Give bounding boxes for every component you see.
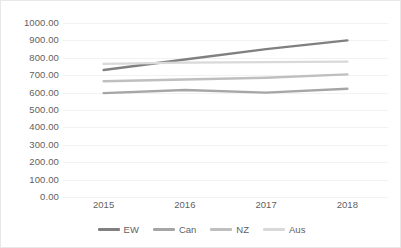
y-tick-label: 600.00 (3, 88, 59, 98)
legend-swatch-icon (263, 228, 285, 231)
series-line-aus (104, 62, 348, 64)
x-tick-label: 2017 (256, 199, 277, 211)
y-tick-label: 0.00 (3, 192, 59, 202)
y-tick-label: 900.00 (3, 35, 59, 45)
x-axis: 2015201620172018 (63, 199, 388, 215)
series-lines (63, 23, 388, 197)
legend-item-ew[interactable]: EW (98, 224, 139, 235)
series-line-can (104, 89, 348, 93)
legend-item-can[interactable]: Can (153, 224, 196, 235)
x-tick-label: 2015 (93, 199, 114, 211)
y-tick-label: 300.00 (3, 140, 59, 150)
y-tick-label: 1000.00 (3, 18, 59, 28)
legend-swatch-icon (210, 228, 232, 231)
y-axis: 1000.00900.00800.00700.00600.00500.00400… (1, 1, 59, 248)
series-line-nz (104, 74, 348, 81)
y-tick-label: 100.00 (3, 175, 59, 185)
x-tick-label: 2018 (337, 199, 358, 211)
legend-label: Can (179, 224, 196, 235)
legend-item-aus[interactable]: Aus (263, 224, 305, 235)
legend-label: NZ (236, 224, 249, 235)
line-chart: 1000.00900.00800.00700.00600.00500.00400… (0, 0, 401, 248)
x-tick-label: 2016 (174, 199, 195, 211)
plot-area (63, 23, 388, 197)
y-tick-label: 700.00 (3, 70, 59, 80)
series-line-ew (104, 40, 348, 70)
legend-label: EW (124, 224, 139, 235)
y-tick-label: 800.00 (3, 53, 59, 63)
gridline (63, 197, 388, 198)
legend-item-nz[interactable]: NZ (210, 224, 249, 235)
y-tick-label: 500.00 (3, 105, 59, 115)
legend-label: Aus (289, 224, 305, 235)
y-tick-label: 400.00 (3, 122, 59, 132)
chart-legend: EWCanNZAus (1, 224, 401, 235)
legend-swatch-icon (98, 228, 120, 231)
legend-swatch-icon (153, 228, 175, 231)
y-tick-label: 200.00 (3, 157, 59, 167)
